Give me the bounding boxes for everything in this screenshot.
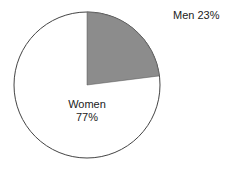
men-label: Men 23% bbox=[173, 9, 219, 22]
women-label-pct: 77% bbox=[67, 111, 107, 124]
women-label-name: Women bbox=[67, 98, 107, 111]
pie-slice-men bbox=[87, 12, 159, 85]
women-label: Women 77% bbox=[67, 98, 107, 124]
pie-chart bbox=[0, 0, 230, 173]
